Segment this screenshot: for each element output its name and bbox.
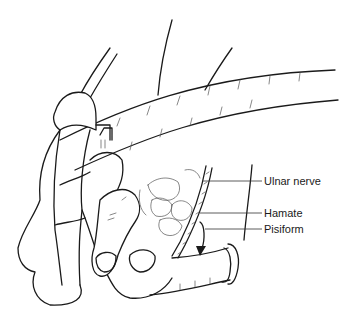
label-leaders (0, 0, 359, 310)
label-ulnar-nerve: Ulnar nerve (264, 175, 321, 187)
label-hamate: Hamate (264, 207, 303, 219)
anatomical-figure: Ulnar nerve Hamate Pisiform (0, 0, 359, 310)
label-pisiform: Pisiform (264, 223, 304, 235)
